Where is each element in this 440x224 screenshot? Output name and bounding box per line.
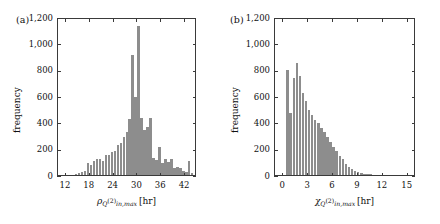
y-axis-tick-right (412, 176, 416, 177)
y-axis-tick (274, 18, 278, 19)
x-axis-tick-label: 15 (393, 180, 421, 190)
x-axis-tick-label: 3 (293, 180, 321, 190)
y-axis-tick-right (193, 18, 197, 19)
y-axis-tick (274, 71, 278, 72)
y-axis-tick (274, 44, 278, 45)
y-axis-tick-right (412, 97, 416, 98)
x-axis-tick (65, 173, 66, 177)
y-axis-tick-label: 600 (15, 92, 53, 102)
panel-b-bars (275, 19, 414, 175)
y-axis-tick-right (193, 71, 197, 72)
x-axis-tick-top (307, 18, 308, 22)
y-axis-tick-right (193, 150, 197, 151)
y-axis-tick-label: 1,200 (15, 13, 53, 23)
panel-b-x-subscript: Q(2)in,max (320, 200, 355, 207)
y-axis-tick (57, 71, 61, 72)
histogram-bar (191, 173, 193, 175)
x-axis-tick-label: 0 (268, 180, 296, 190)
x-axis-tick (184, 173, 185, 177)
x-axis-tick-top (184, 18, 185, 22)
x-axis-tick-label: 6 (318, 180, 346, 190)
x-axis-tick (136, 173, 137, 177)
y-axis-tick-label: 800 (15, 65, 53, 75)
y-axis-tick (57, 150, 61, 151)
y-axis-tick-right (412, 44, 416, 45)
x-axis-tick (382, 173, 383, 177)
x-axis-tick (407, 173, 408, 177)
panel-a-x-subscript: Q(2)in,max (102, 200, 137, 207)
x-axis-tick-top (113, 18, 114, 22)
y-axis-tick-right (412, 150, 416, 151)
panel-a-plot-area (57, 18, 196, 176)
panel-a: (a) frequency 12182430364202004006008001… (0, 0, 220, 224)
x-axis-tick (113, 173, 114, 177)
y-axis-tick-label: 1,000 (15, 39, 53, 49)
y-axis-tick-label: 0 (232, 171, 270, 181)
y-axis-tick-right (412, 18, 416, 19)
y-axis-tick (274, 176, 278, 177)
y-axis-tick-label: 400 (232, 118, 270, 128)
x-axis-tick-label: 42 (170, 180, 198, 190)
y-axis-tick (274, 97, 278, 98)
panel-b: (b) frequency 0369121502004006008001,000… (220, 0, 440, 224)
y-axis-tick-right (412, 71, 416, 72)
panel-b-plot-area (274, 18, 415, 176)
y-axis-tick-right (193, 123, 197, 124)
x-axis-tick-top (407, 18, 408, 22)
figure-histograms: (a) frequency 12182430364202004006008001… (0, 0, 440, 224)
y-axis-tick-right (193, 97, 197, 98)
x-axis-tick (332, 173, 333, 177)
x-axis-tick-top (89, 18, 90, 22)
x-axis-tick-label: 9 (343, 180, 371, 190)
y-axis-tick (274, 150, 278, 151)
x-axis-tick (357, 173, 358, 177)
y-axis-tick-label: 600 (232, 92, 270, 102)
x-axis-tick-top (160, 18, 161, 22)
y-axis-tick-label: 0 (15, 171, 53, 181)
panel-a-x-unit: [hr] (137, 196, 156, 206)
x-axis-tick-top (65, 18, 66, 22)
x-axis-tick-top (282, 18, 283, 22)
x-axis-tick (89, 173, 90, 177)
x-axis-tick (160, 173, 161, 177)
x-axis-tick (282, 173, 283, 177)
y-axis-tick (274, 123, 278, 124)
y-axis-tick-right (412, 123, 416, 124)
y-axis-tick (57, 18, 61, 19)
y-axis-tick (57, 44, 61, 45)
x-axis-tick-top (332, 18, 333, 22)
y-axis-tick-label: 200 (232, 144, 270, 154)
x-axis-tick-label: 12 (368, 180, 396, 190)
panel-b-x-unit: [hr] (355, 196, 374, 206)
x-axis-tick-top (136, 18, 137, 22)
y-axis-tick-label: 800 (232, 65, 270, 75)
x-axis-tick (307, 173, 308, 177)
panel-a-x-axis-title: ρQ(2)in,max [hr] (57, 196, 196, 207)
panel-a-bars (58, 19, 195, 175)
y-axis-tick-label: 400 (15, 118, 53, 128)
y-axis-tick-right (193, 44, 197, 45)
histogram-bar (369, 174, 372, 175)
panel-b-x-axis-title: χQ(2)in,max [hr] (274, 196, 415, 207)
y-axis-tick-right (193, 176, 197, 177)
y-axis-tick-label: 200 (15, 144, 53, 154)
y-axis-tick-label: 1,000 (232, 39, 270, 49)
y-axis-tick-label: 1,200 (232, 13, 270, 23)
x-axis-tick-top (357, 18, 358, 22)
x-axis-tick-top (382, 18, 383, 22)
y-axis-tick (57, 97, 61, 98)
y-axis-tick (57, 123, 61, 124)
y-axis-tick (57, 176, 61, 177)
